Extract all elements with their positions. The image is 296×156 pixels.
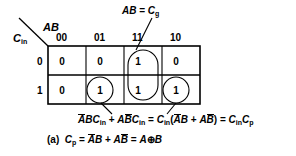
kmap-cell-r1-c11: 1 xyxy=(131,86,145,96)
annotation-generate-equals: = xyxy=(139,5,145,16)
eq-factored-c: C xyxy=(157,114,164,125)
column-header-00: 00 xyxy=(56,33,67,43)
eq-factored-t2b-bar: B xyxy=(207,114,214,126)
eq-factored-t2a: A xyxy=(199,114,206,125)
caption-xor-a: A xyxy=(139,134,146,145)
eq-term1-c-subscript: in xyxy=(100,119,106,126)
eq-equals-2: = xyxy=(220,114,226,125)
caption-t1a-bar: A xyxy=(88,134,95,146)
kmap-cell-r0-c01: 0 xyxy=(93,57,107,67)
eq-factored-t1b: B xyxy=(181,114,188,125)
annotation-generate-rhs-var: C xyxy=(148,5,155,16)
eq-factored-close-paren: ) xyxy=(214,114,217,125)
kmap-cell-r1-c01: 1 xyxy=(93,86,107,96)
karnaugh-map-figure: AB Cin 00 01 11 10 0 1 0 0 1 0 0 1 1 1 A… xyxy=(0,0,296,156)
caption-equals-1: = xyxy=(79,134,85,145)
column-header-11: 11 xyxy=(132,33,143,43)
annotation-generate: AB = Cg xyxy=(122,6,159,17)
kmap-cell-r1-c10: 1 xyxy=(169,86,183,96)
caption-lhs-subscript: p xyxy=(72,139,76,146)
caption-lhs: C xyxy=(65,134,72,145)
annotation-generate-lhs: AB xyxy=(122,5,136,16)
kmap-cell-r1-c00: 0 xyxy=(55,86,69,96)
caption-xor-b: B xyxy=(155,134,162,145)
row-variable-letter: C xyxy=(13,32,21,44)
row-header-1: 1 xyxy=(37,86,43,96)
eq-result-c2-subscript: p xyxy=(249,119,253,126)
eq-term2-a: A xyxy=(117,114,124,125)
row-header-0: 0 xyxy=(37,57,43,67)
equation-propagate-expansion: ABCin + ABCin = Cin(AB + AB) = CinCp xyxy=(78,114,254,126)
row-variable-subscript: in xyxy=(21,38,27,45)
eq-term2-c: C xyxy=(132,114,139,125)
column-header-01: 01 xyxy=(94,33,105,43)
caption-t1b: B xyxy=(95,134,102,145)
figure-caption-equation: (a) Cp = AB + AB = A⊕B xyxy=(47,134,162,146)
annotation-generate-rhs-subscript: g xyxy=(155,10,159,17)
eq-result-c1: C xyxy=(229,114,236,125)
kmap-cell-r0-c11: 1 xyxy=(131,57,145,67)
eq-plus-2: + xyxy=(191,114,197,125)
eq-factored-t1a-bar: A xyxy=(174,114,181,126)
caption-plus: + xyxy=(105,134,111,145)
caption-t2a: A xyxy=(114,134,121,145)
column-header-10: 10 xyxy=(170,33,181,43)
eq-term2-b-bar: B xyxy=(125,114,132,126)
kmap-cell-r0-c10: 0 xyxy=(169,57,183,67)
eq-term1-c: C xyxy=(92,114,99,125)
xor-icon: ⊕ xyxy=(147,134,155,145)
caption-equals-2: = xyxy=(131,134,137,145)
row-variable-label: Cin xyxy=(13,33,27,45)
caption-tag: (a) xyxy=(47,134,59,145)
eq-equals-1: = xyxy=(148,114,154,125)
eq-term2-c-subscript: in xyxy=(139,119,145,126)
eq-plus-1: + xyxy=(109,114,115,125)
kmap-cell-r0-c00: 0 xyxy=(55,57,69,67)
caption-t2b-bar: B xyxy=(121,134,128,146)
